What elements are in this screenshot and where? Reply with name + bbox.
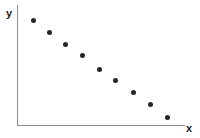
y-axis-label: y — [6, 7, 12, 19]
y-axis-line — [17, 5, 18, 126]
scatter-plot-figure: y x — [0, 0, 200, 138]
data-point — [165, 115, 170, 120]
data-point — [31, 18, 36, 23]
x-axis-line — [17, 125, 185, 126]
x-axis-label: x — [186, 122, 192, 134]
plot-area: y x — [0, 0, 200, 138]
data-point — [80, 53, 85, 58]
data-point — [47, 30, 52, 35]
data-point — [131, 90, 136, 95]
data-point — [113, 78, 118, 83]
data-point — [63, 42, 68, 47]
data-point — [97, 67, 102, 72]
data-point — [148, 102, 153, 107]
